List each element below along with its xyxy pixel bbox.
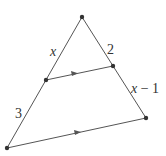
vertices bbox=[5, 15, 148, 150]
label-upper-right: 2 bbox=[107, 42, 114, 57]
label-lower-right: x − 1 bbox=[130, 81, 159, 96]
left-side bbox=[7, 17, 82, 148]
parallel-segment bbox=[46, 66, 113, 80]
label-upper-left: x bbox=[49, 44, 57, 59]
arrow-mark-upper-icon bbox=[71, 71, 78, 76]
arrow-mark-lower-icon bbox=[74, 130, 81, 135]
apex-point bbox=[80, 15, 84, 19]
triangle-diagram: x 2 3 x − 1 bbox=[0, 0, 166, 156]
label-lower-right-rest: − 1 bbox=[137, 81, 159, 96]
label-lower-left: 3 bbox=[15, 106, 22, 121]
right-mid-point bbox=[111, 64, 115, 68]
triangle-edges bbox=[7, 17, 146, 148]
bottom-right-point bbox=[144, 116, 148, 120]
bottom-left-point bbox=[5, 146, 9, 150]
left-mid-point bbox=[44, 78, 48, 82]
parallel-arrow-marks bbox=[71, 71, 81, 135]
